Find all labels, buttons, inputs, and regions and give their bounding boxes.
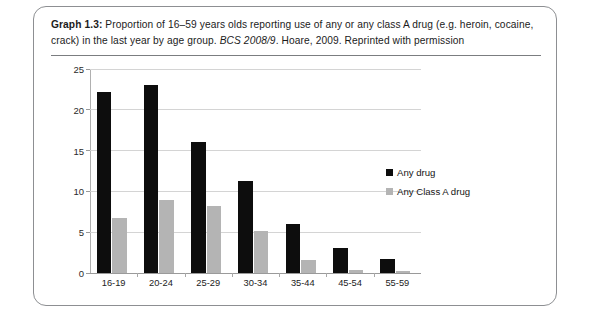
- x-tick-label: 55-59: [374, 278, 421, 288]
- bar-30-34-any-drug: [238, 181, 253, 273]
- bar-chart: 0510152025 16-1920-2425-2930-3435-4445-5…: [34, 7, 558, 307]
- x-tick-label: 16-19: [90, 278, 137, 288]
- x-tick-mark: [326, 273, 327, 277]
- legend-label: Any Class A drug: [397, 186, 470, 197]
- x-tick-label: 45-54: [326, 278, 373, 288]
- bar-35-44-any-drug: [286, 224, 301, 273]
- bar-group: [232, 69, 279, 273]
- x-tick-label: 25-29: [185, 278, 232, 288]
- legend-swatch-icon: [386, 188, 393, 195]
- bar-20-24-any-class-a-drug: [159, 200, 174, 273]
- y-tick-label: 25: [73, 64, 84, 75]
- chart-legend: Any drug Any Class A drug: [386, 167, 470, 205]
- bar-55-59-any-class-a-drug: [396, 271, 411, 273]
- x-tick-label: 20-24: [137, 278, 184, 288]
- bar-45-54-any-class-a-drug: [349, 270, 364, 273]
- x-tick-mark: [374, 273, 375, 277]
- y-tick-label: 10: [73, 186, 84, 197]
- bar-group: [185, 69, 232, 273]
- figure-panel: Graph 1.3: Proportion of 16–59 years old…: [33, 6, 557, 306]
- bar-group: [279, 69, 326, 273]
- bar-group: [137, 69, 184, 273]
- bar-55-59-any-drug: [380, 259, 395, 273]
- plot-area: 0510152025 16-1920-2425-2930-3435-4445-5…: [90, 69, 421, 273]
- x-tick-mark: [279, 273, 280, 277]
- bar-20-24-any-drug: [144, 85, 159, 273]
- legend-item-any-drug: Any drug: [386, 167, 470, 178]
- y-tick-label: 0: [79, 268, 84, 279]
- bar-group: [90, 69, 137, 273]
- bar-35-44-any-class-a-drug: [301, 260, 316, 273]
- bar-16-19-any-class-a-drug: [112, 218, 127, 273]
- x-tick-label: 30-34: [232, 278, 279, 288]
- bar-16-19-any-drug: [97, 92, 112, 273]
- x-tick-mark: [185, 273, 186, 277]
- y-tick-label: 20: [73, 104, 84, 115]
- y-tick-label: 5: [79, 227, 84, 238]
- bar-25-29-any-class-a-drug: [207, 206, 222, 273]
- x-tick-label: 35-44: [279, 278, 326, 288]
- x-tick-mark: [232, 273, 233, 277]
- bar-group: [326, 69, 373, 273]
- legend-label: Any drug: [397, 167, 435, 178]
- legend-swatch-icon: [386, 169, 393, 176]
- legend-item-any-class-a-drug: Any Class A drug: [386, 186, 470, 197]
- y-tick-label: 15: [73, 145, 84, 156]
- x-tick-mark: [137, 273, 138, 277]
- bar-45-54-any-drug: [333, 248, 348, 273]
- bar-30-34-any-class-a-drug: [254, 231, 269, 273]
- bar-25-29-any-drug: [191, 142, 206, 273]
